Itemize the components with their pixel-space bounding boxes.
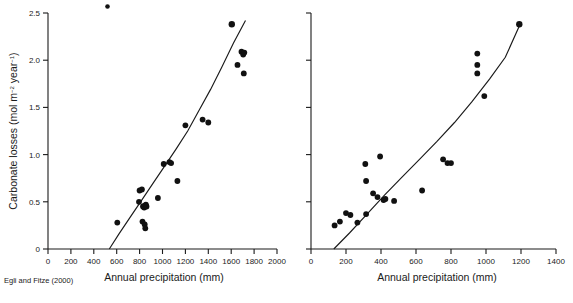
data-point bbox=[241, 71, 247, 77]
right-xtick-2: 400 bbox=[374, 257, 388, 266]
citation-text: Egli and Fitze (2000) bbox=[4, 276, 74, 285]
left-xtick-9: 1800 bbox=[245, 257, 263, 266]
left-data-points bbox=[105, 4, 247, 231]
data-point bbox=[362, 161, 368, 167]
left-xtick-6: 1200 bbox=[177, 257, 195, 266]
right-xtick-5: 1000 bbox=[477, 257, 495, 266]
data-point bbox=[440, 156, 446, 162]
left-xtick-10: 2000 bbox=[268, 257, 286, 266]
left-x-ticks bbox=[48, 249, 277, 254]
data-point bbox=[332, 223, 338, 229]
right-xtick-6: 1200 bbox=[512, 257, 530, 266]
right-xtick-1: 200 bbox=[339, 257, 353, 266]
right-x-ticks bbox=[311, 249, 556, 254]
data-point bbox=[168, 160, 174, 166]
data-point bbox=[183, 122, 189, 128]
right-xtick-3: 600 bbox=[409, 257, 423, 266]
data-point bbox=[363, 211, 369, 217]
scatter-plot-figure: 0 0.5 1.0 1.5 2.0 2.5 0 bbox=[0, 0, 573, 303]
svg-text:Carbonate losses (mol m−2 year: Carbonate losses (mol m−2 year−1) bbox=[7, 52, 19, 209]
left-y-axis-label: Carbonate losses (mol m−2 year−1) bbox=[7, 52, 19, 209]
left-xtick-4: 800 bbox=[133, 257, 147, 266]
data-point bbox=[419, 188, 425, 194]
left-ytick-3: 1.5 bbox=[29, 103, 41, 112]
data-point bbox=[175, 178, 181, 184]
right-fit-curve bbox=[334, 24, 520, 249]
right-x-tick-labels: 0 200 400 600 800 1000 1200 1400 bbox=[309, 257, 566, 266]
right-x-axis-label: Annual precipitation (mm) bbox=[377, 271, 497, 283]
data-point bbox=[474, 62, 480, 68]
right-xtick-0: 0 bbox=[309, 257, 314, 266]
data-point bbox=[474, 71, 480, 77]
data-point bbox=[481, 93, 487, 99]
ylabel-main: Carbonate losses (mol m bbox=[7, 93, 19, 210]
ylabel-tail: ) bbox=[7, 52, 19, 56]
data-point bbox=[205, 120, 211, 126]
ylabel-mid: year bbox=[7, 62, 19, 86]
data-point bbox=[200, 117, 206, 123]
left-x-tick-labels: 0 200 400 600 800 1000 1200 1400 1600 18… bbox=[46, 257, 287, 266]
data-point bbox=[516, 21, 522, 27]
data-point bbox=[377, 154, 383, 160]
data-point bbox=[383, 196, 389, 202]
right-y-ticks bbox=[306, 13, 311, 249]
left-x-axis-label: Annual precipitation (mm) bbox=[104, 271, 224, 283]
data-point bbox=[363, 178, 369, 184]
left-ytick-1: 0.5 bbox=[29, 198, 41, 207]
left-xtick-2: 400 bbox=[87, 257, 101, 266]
left-xtick-1: 200 bbox=[64, 257, 78, 266]
right-xtick-4: 800 bbox=[444, 257, 458, 266]
left-xtick-5: 1000 bbox=[154, 257, 172, 266]
data-point bbox=[161, 161, 167, 167]
left-y-ticks bbox=[43, 13, 48, 249]
data-point bbox=[142, 225, 148, 231]
left-ytick-0: 0 bbox=[36, 245, 41, 254]
data-point bbox=[139, 187, 145, 193]
data-point bbox=[348, 212, 354, 218]
left-xtick-0: 0 bbox=[46, 257, 51, 266]
data-point bbox=[229, 21, 235, 27]
left-y-tick-labels: 0 0.5 1.0 1.5 2.0 2.5 bbox=[29, 9, 41, 254]
left-panel: 0 0.5 1.0 1.5 2.0 2.5 0 bbox=[7, 4, 286, 283]
data-point bbox=[144, 204, 150, 210]
data-point bbox=[337, 219, 343, 225]
data-point bbox=[114, 220, 120, 226]
right-xtick-7: 1400 bbox=[547, 257, 565, 266]
left-xtick-3: 600 bbox=[110, 257, 124, 266]
left-ytick-5: 2.5 bbox=[29, 9, 41, 18]
data-point bbox=[375, 194, 381, 200]
left-xtick-8: 1600 bbox=[222, 257, 240, 266]
data-point bbox=[391, 198, 397, 204]
data-point bbox=[448, 160, 454, 166]
data-point bbox=[355, 220, 361, 226]
left-xtick-7: 1400 bbox=[199, 257, 217, 266]
data-point bbox=[105, 4, 110, 9]
data-point bbox=[136, 199, 142, 205]
data-point bbox=[474, 51, 480, 57]
left-ytick-4: 2.0 bbox=[29, 56, 41, 65]
right-panel: 0 200 400 600 800 1000 1200 1400 Annual … bbox=[306, 13, 565, 283]
right-data-points bbox=[332, 21, 523, 228]
data-point bbox=[241, 50, 247, 56]
data-point bbox=[370, 190, 376, 196]
data-point bbox=[235, 62, 241, 68]
left-ytick-2: 1.0 bbox=[29, 151, 41, 160]
figure-container: 0 0.5 1.0 1.5 2.0 2.5 0 bbox=[0, 0, 573, 303]
data-point bbox=[155, 195, 161, 201]
left-fit-curve bbox=[109, 21, 245, 250]
